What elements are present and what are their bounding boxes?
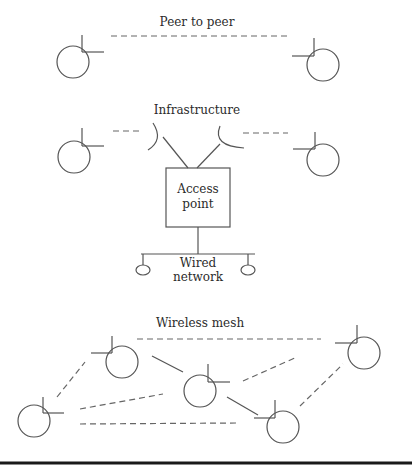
wired-network-label-line1: Wired [180,256,217,270]
access-point-box: Access point [166,168,230,227]
mesh-link [152,356,183,372]
mesh-link [80,394,163,409]
wired-network-label-line2: network [173,270,224,284]
antenna-arc-icon [148,123,188,168]
access-point-label-line1: Access [176,182,219,196]
peer-to-peer-title: Peer to peer [160,15,235,29]
wired-host-icon [136,265,150,275]
wireless-node-icon [254,400,299,443]
mesh-link [300,364,343,406]
infrastructure-title: Infrastructure [154,103,240,117]
wireless-mesh-section: Wireless mesh [18,316,380,443]
wireless-node-icon [58,128,104,173]
wired-host-icon [241,265,255,275]
antenna-arc-icon [197,126,244,168]
wireless-node-icon [18,397,64,437]
mesh-link [57,362,85,397]
access-point-label-line2: point [182,197,213,211]
network-topologies-diagram: Peer to peer Infrastructure [0,0,412,470]
wireless-mesh-title: Wireless mesh [156,316,245,330]
peer-to-peer-section: Peer to peer [57,15,339,81]
wireless-node-icon [292,38,339,81]
infrastructure-section: Infrastructure Access point [58,103,339,284]
wireless-node-icon [335,325,380,369]
wireless-node-icon [184,364,230,407]
wired-network: Wired network [136,227,255,284]
mesh-link [227,397,258,415]
wireless-node-icon [57,35,104,78]
wireless-node-icon [91,336,138,378]
mesh-link [243,357,297,381]
wireless-node-icon [293,132,339,176]
mesh-link [80,423,237,424]
